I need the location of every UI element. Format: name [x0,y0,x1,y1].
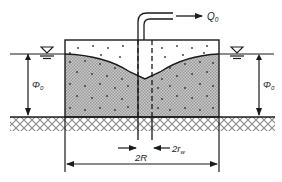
head-label-left: Φ0 [32,79,44,91]
impermeable-base [10,117,275,131]
head-arrow-left-up-icon [25,54,31,60]
aquifer-well-diagram: Q0 Φ0 Φ0 2rw 2R [0,0,282,182]
radius-label: 2R [134,152,147,163]
well-diameter-label: 2rw [171,143,185,155]
water-table-triangle-icon-right [230,47,244,59]
head-arrow-right-up-icon [256,54,262,60]
discharge-label: Q0 [207,11,219,23]
head-label-right: Φ0 [263,79,275,91]
water-table-triangle-icon-left [40,47,54,59]
saturated-zone [65,54,219,117]
